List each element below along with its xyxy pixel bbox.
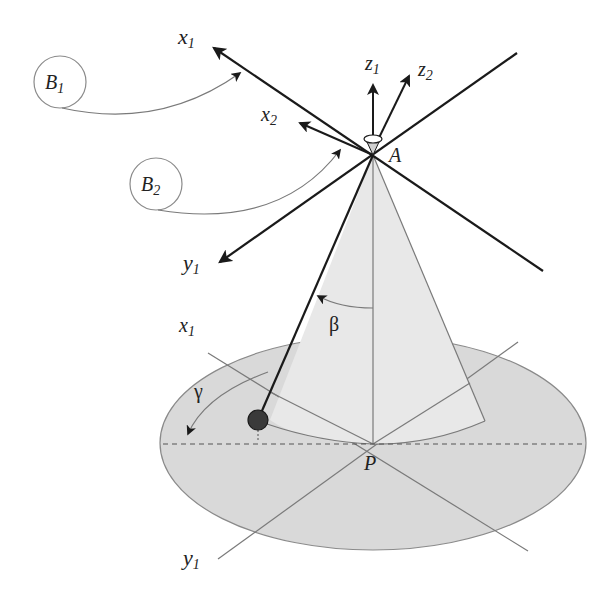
pendulum-ball — [248, 410, 268, 430]
label-x1-base: x1 — [178, 314, 195, 339]
label-z1: z1 — [364, 52, 380, 77]
label-base-center-P: P — [363, 452, 376, 474]
label-x1-top: x1 — [177, 24, 195, 51]
label-z2: z2 — [417, 58, 433, 83]
label-x2: x2 — [260, 103, 277, 128]
label-beta: β — [329, 313, 339, 336]
cone-surface — [270, 155, 485, 444]
apex-joint-top — [364, 135, 382, 143]
x2-axis-line — [300, 123, 373, 155]
label-y1-top: y1 — [181, 250, 200, 277]
frame-b2-arrow — [158, 150, 340, 214]
frame-b1-arrow — [62, 73, 240, 114]
cone-diagram: x1 x2 z1 z2 A y1 x1 y1 P β γ B1 B2 — [0, 0, 615, 592]
z2-axis-line — [375, 76, 409, 146]
label-apex-A: A — [387, 144, 402, 166]
label-gamma: γ — [193, 380, 203, 403]
label-y1-base: y1 — [181, 545, 200, 572]
